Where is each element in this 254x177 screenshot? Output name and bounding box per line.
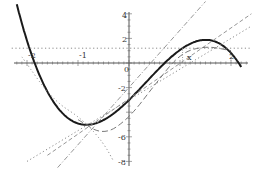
series-5 [78,47,231,131]
y-tick-label: -6 [118,133,126,142]
x-tick-label: 0 [124,65,129,74]
x-tick-label: 2 [229,52,234,61]
y-tick-label: 4 [122,11,127,20]
series-4 [58,2,206,168]
y-tick-label: -8 [118,158,126,167]
series-6 [22,57,114,161]
x-tick-label: -1 [79,51,87,60]
y-tick-label: 2 [122,35,127,44]
y-tick-label: -2 [118,84,126,93]
series-3 [27,26,251,161]
tick-labels: -2-10242-2-6-8x [28,11,234,167]
series-layer [12,2,252,168]
taylor-approximation-chart: -2-10242-2-6-8x [0,0,254,177]
series-2 [47,14,251,156]
x-tick-label: -2 [28,51,36,60]
point-label: x [187,53,192,62]
